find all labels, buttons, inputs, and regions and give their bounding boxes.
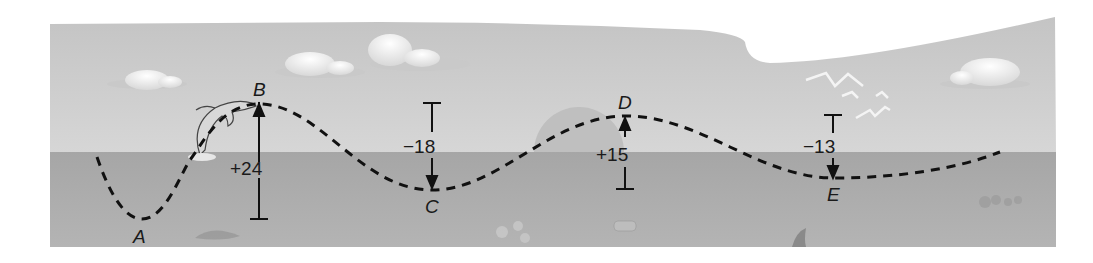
- point-label-a: A: [133, 226, 146, 248]
- change-value-bc: −18: [403, 136, 435, 158]
- point-label-e: E: [827, 184, 840, 206]
- sea-water: [50, 152, 1056, 247]
- change-value-de: −13: [803, 136, 835, 158]
- point-label-c: C: [425, 196, 439, 218]
- change-value-cd: +15: [596, 144, 628, 166]
- change-value-ab: +24: [230, 158, 262, 180]
- dolphin-path-diagram: [0, 0, 1093, 263]
- fish-icon: [614, 221, 636, 231]
- point-label-b: B: [253, 79, 266, 101]
- point-label-d: D: [618, 92, 632, 114]
